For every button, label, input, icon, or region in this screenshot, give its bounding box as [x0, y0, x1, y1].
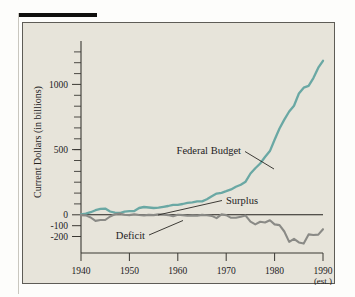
line-chart: Current Dollars (in billions) 1000 500 0…: [23, 23, 336, 285]
x-tick-label-1980: 1980: [265, 266, 284, 276]
x-tick-label-est-note: (est.): [314, 276, 332, 285]
y-axis-minor-ticks: [74, 52, 81, 204]
figure-page: Current Dollars (in billions) 1000 500 0…: [0, 0, 355, 297]
chart-frame: Current Dollars (in billions) 1000 500 0…: [22, 22, 335, 284]
annotation-surplus: Surplus: [226, 195, 258, 206]
annotation-deficit: Deficit: [116, 230, 145, 241]
federal-budget-leader-line: [245, 152, 274, 170]
y-tick-label-500: 500: [54, 145, 69, 155]
decorative-left-rule: [18, 13, 19, 294]
y-tick-label-minus200: -200: [51, 232, 69, 242]
annotation-federal-budget: Federal Budget: [177, 145, 242, 156]
y-tick-label-1000: 1000: [49, 80, 68, 90]
x-axis-ticks: [81, 253, 323, 261]
x-tick-label-1990: 1990: [314, 266, 333, 276]
y-tick-label-minus100: -100: [51, 221, 69, 231]
x-tick-label-1970: 1970: [217, 266, 236, 276]
deficit-leader-line: [149, 221, 183, 236]
y-tick-label-0: 0: [63, 210, 68, 220]
x-tick-label-1940: 1940: [72, 266, 91, 276]
plot-surface: Current Dollars (in billions) 1000 500 0…: [23, 23, 336, 285]
x-tick-label-1960: 1960: [168, 266, 187, 276]
decorative-top-rule: [18, 13, 97, 17]
x-tick-label-1950: 1950: [120, 266, 139, 276]
series-federal-budget: [81, 61, 323, 215]
y-axis-title: Current Dollars (in billions): [32, 86, 44, 198]
